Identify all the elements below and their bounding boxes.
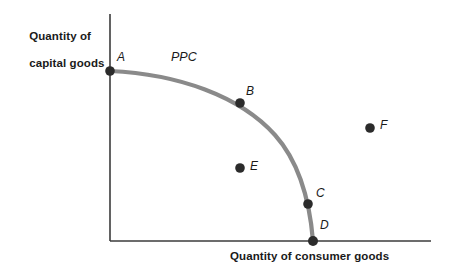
point-e-label: E [250, 159, 258, 173]
point-d-label: D [320, 218, 329, 232]
point-b-dot [235, 98, 245, 108]
point-f-dot [365, 123, 375, 133]
point-a-dot [105, 66, 115, 76]
ppc-diagram: Quantity of capital goods Quantity of co… [0, 0, 449, 274]
y-axis-title-line2: capital goods [29, 57, 104, 69]
x-axis-title: Quantity of consumer goods [230, 250, 389, 264]
point-d-dot [308, 236, 318, 246]
point-b-label: B [246, 84, 254, 98]
ppc-curve [110, 71, 313, 241]
y-axis-title: Quantity of capital goods [16, 16, 105, 84]
ppc-curve-label: PPC [171, 50, 197, 64]
point-f-label: F [380, 118, 387, 132]
point-a-label: A [117, 50, 125, 64]
point-c-label: C [316, 186, 325, 200]
y-axis-title-line1: Quantity of [29, 30, 91, 42]
point-c-dot [303, 199, 313, 209]
point-e-dot [235, 163, 245, 173]
